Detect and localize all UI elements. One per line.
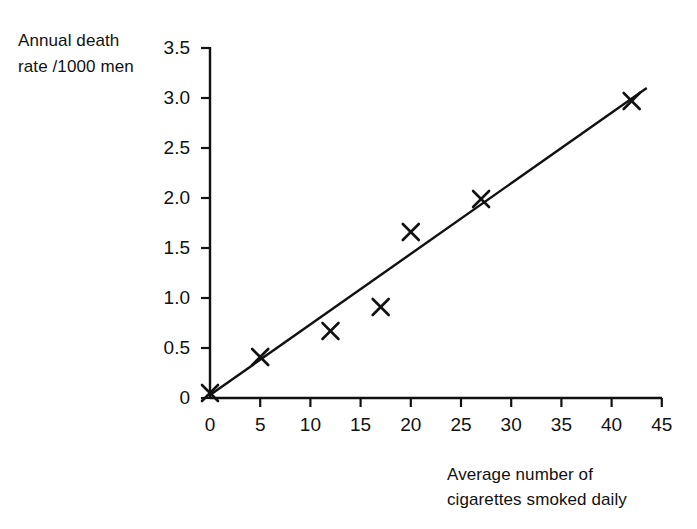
best-fit-line xyxy=(210,88,647,395)
data-point-marker xyxy=(322,323,338,339)
x-axis-tick-label: 15 xyxy=(341,414,381,436)
axis-lines xyxy=(210,47,662,398)
x-axis-tick-label: 5 xyxy=(240,414,280,436)
y-axis-tick-label: 1.0 xyxy=(142,287,190,309)
data-point-marker xyxy=(624,93,640,109)
y-axis-ticks xyxy=(201,48,210,398)
chart-figure: Annual death rate /1000 men Average numb… xyxy=(0,0,697,529)
y-axis-tick-label: 0.5 xyxy=(142,337,190,359)
x-axis-tick-label: 45 xyxy=(642,414,682,436)
y-axis-tick-label: 1.5 xyxy=(142,237,190,259)
y-axis-tick-label: 3.0 xyxy=(142,87,190,109)
y-axis-tick-label: 0 xyxy=(142,387,190,409)
x-axis-tick-label: 20 xyxy=(391,414,431,436)
trend-line xyxy=(210,88,647,395)
x-axis-tick-label: 0 xyxy=(190,414,230,436)
x-axis-tick-label: 10 xyxy=(290,414,330,436)
y-axis-tick-label: 3.5 xyxy=(142,37,190,59)
data-point-marker xyxy=(373,299,389,315)
x-axis-tick-label: 35 xyxy=(541,414,581,436)
x-axis-tick-label: 25 xyxy=(441,414,481,436)
data-point-marker xyxy=(403,224,419,240)
x-axis-tick-label: 40 xyxy=(592,414,632,436)
x-axis-ticks xyxy=(260,398,662,407)
x-axis-tick-label: 30 xyxy=(491,414,531,436)
y-axis-tick-label: 2.5 xyxy=(142,137,190,159)
scatter-plot xyxy=(0,0,697,529)
y-axis-tick-label: 2.0 xyxy=(142,187,190,209)
